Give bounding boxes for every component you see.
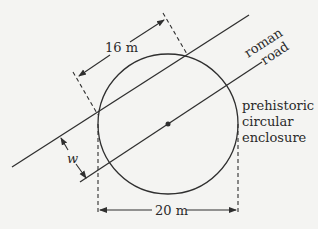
chord-arrow-right	[130, 20, 164, 42]
width-arrow-up	[61, 138, 68, 150]
road-edge-upper	[12, 15, 249, 167]
enclosure-label-line3: enclosure	[242, 130, 307, 145]
chord-arrow-left	[79, 55, 110, 76]
road-width-label: w	[67, 151, 78, 166]
chord-length-label: 16 m	[105, 40, 138, 55]
diagram-canvas: 16 m w 20 m roman road prehistoric circu…	[0, 0, 318, 229]
diagram-svg: 16 m w 20 m roman road prehistoric circu…	[0, 0, 318, 229]
enclosure-label-line1: prehistoric	[242, 98, 314, 113]
chord-dash-right	[163, 13, 187, 54]
diameter-label: 20 m	[155, 203, 188, 218]
width-arrow-down	[76, 164, 86, 178]
road-edge-lower	[80, 62, 262, 182]
enclosure-label-line2: circular	[242, 114, 294, 129]
chord-dash-left	[73, 72, 98, 115]
